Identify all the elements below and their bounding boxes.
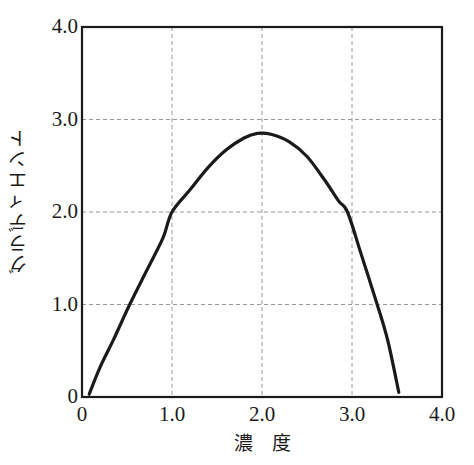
x-tick-label: 4.0 [407, 404, 474, 425]
plot-area [0, 0, 474, 465]
x-axis-title: 濃 度 [82, 428, 442, 455]
x-tick-label: 1.0 [137, 404, 207, 425]
x-tick-label: 0 [47, 404, 117, 425]
x-tick-label: 2.0 [227, 404, 297, 425]
chart-figure: グラディエント 01.02.03.04.0 01.02.03.04.0 濃 度 [0, 0, 474, 465]
x-tick-label: 3.0 [317, 404, 387, 425]
data-curve [89, 133, 399, 394]
